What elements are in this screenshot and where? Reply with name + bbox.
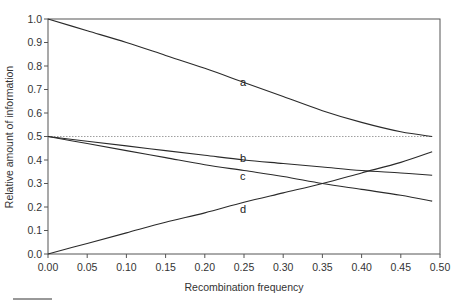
y-tick-label: 0.2 [27, 201, 42, 213]
x-tick-label: 0.00 [38, 261, 59, 273]
y-tick-label: 1.0 [27, 13, 42, 25]
x-tick-label: 0.25 [234, 261, 255, 273]
x-axis-title: Recombination frequency [184, 281, 304, 293]
x-tick-label: 0.15 [155, 261, 176, 273]
curve-label-c: c [240, 170, 246, 182]
x-tick-label: 0.10 [116, 261, 137, 273]
y-tick-label: 0.9 [27, 36, 42, 48]
curve-label-d: d [240, 203, 246, 215]
y-tick-label: 0.3 [27, 177, 42, 189]
y-tick-label: 0.4 [27, 154, 42, 166]
curve-c [48, 137, 432, 202]
curve-labels: abcd [240, 76, 247, 215]
chart: 0.00.10.20.30.40.50.60.70.80.91.0 0.000.… [0, 0, 463, 305]
y-tick-label: 0.8 [27, 60, 42, 72]
y-tick-label: 0.5 [27, 130, 42, 142]
x-tick-label: 0.40 [351, 261, 372, 273]
curve-label-b: b [240, 152, 246, 164]
y-tick-label: 0.6 [27, 107, 42, 119]
y-axis: 0.00.10.20.30.40.50.60.70.80.91.0 [27, 13, 48, 260]
x-axis: 0.000.050.100.150.200.250.300.350.400.45… [38, 254, 451, 273]
y-tick-label: 0.1 [27, 224, 42, 236]
x-tick-label: 0.05 [77, 261, 98, 273]
y-tick-label: 0.7 [27, 83, 42, 95]
x-tick-label: 0.45 [391, 261, 412, 273]
x-tick-label: 0.20 [195, 261, 216, 273]
y-tick-label: 0.0 [27, 248, 42, 260]
y-axis-title: Relative amount of information [3, 66, 15, 209]
x-tick-label: 0.30 [273, 261, 294, 273]
curve-label-a: a [240, 76, 247, 88]
x-tick-label: 0.35 [312, 261, 333, 273]
x-tick-label: 0.50 [430, 261, 451, 273]
